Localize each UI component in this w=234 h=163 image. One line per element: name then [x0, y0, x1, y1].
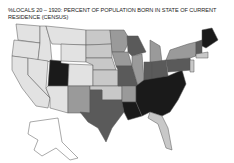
state-wisconsin: [127, 36, 146, 56]
state-pennsylvania: [166, 58, 192, 72]
state-utah: [48, 60, 69, 86]
state-north-dakota: [86, 30, 112, 45]
state-south-dakota: [86, 44, 112, 58]
state-new-mexico: [68, 86, 90, 113]
state-colorado: [68, 64, 93, 86]
state-wyoming: [61, 44, 86, 62]
state-michigan: [150, 40, 162, 62]
state-indiana: [144, 62, 152, 80]
state-florida: [148, 112, 172, 150]
state-kansas: [93, 70, 118, 86]
state-montana: [46, 26, 86, 45]
state-maine: [202, 28, 218, 48]
state-iowa: [112, 52, 132, 66]
state-washington: [16, 24, 40, 43]
state-new-jersey: [190, 60, 194, 72]
us-choropleth-map: [0, 0, 234, 163]
state-new-york: [166, 42, 196, 60]
state-minnesota: [110, 30, 130, 52]
state-alaska: [28, 118, 78, 160]
state-arkansas: [122, 86, 136, 102]
